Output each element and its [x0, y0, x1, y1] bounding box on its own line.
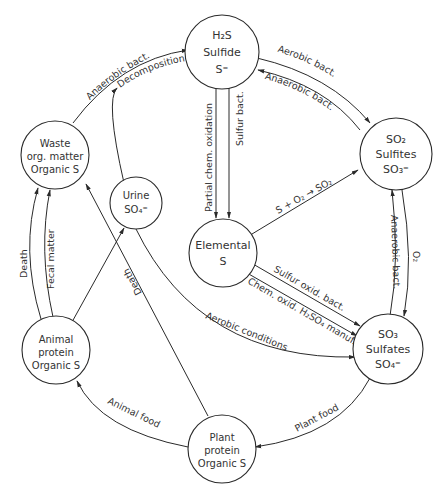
svg-text:Organic S: Organic S — [32, 360, 80, 371]
svg-text:Sulfide: Sulfide — [203, 46, 241, 59]
svg-text:Organic S: Organic S — [31, 164, 79, 175]
svg-text:S: S — [220, 255, 227, 268]
edge-urine-to-sulfide — [112, 88, 124, 183]
svg-text:SO₃⁼: SO₃⁼ — [383, 163, 409, 176]
node-sulfates: SO₃ Sulfates SO₄⁼ — [353, 314, 423, 384]
label-s-o2-so2: S + O₂ → SO₂ — [274, 176, 334, 216]
svg-text:Sulfates: Sulfates — [366, 343, 411, 356]
svg-text:Plant: Plant — [209, 432, 234, 443]
label-o2: O₂ — [411, 251, 422, 263]
svg-text:protein: protein — [204, 445, 240, 456]
svg-text:Elemental: Elemental — [195, 239, 250, 252]
edge-s-o2-so2 — [252, 170, 358, 234]
label-death-plant: Death — [121, 267, 144, 298]
label-partial-chem-oxidation: Partial chem. oxidation — [203, 103, 214, 212]
svg-text:SO₄⁼: SO₄⁼ — [375, 358, 401, 371]
label-sulfur-bact: Sulfur bact. — [234, 91, 245, 146]
edge-o2 — [402, 190, 409, 316]
node-elemental: Elemental S — [189, 219, 257, 287]
svg-text:SO₂: SO₂ — [386, 133, 406, 146]
svg-text:Sulfites: Sulfites — [376, 148, 417, 161]
svg-text:org. matter: org. matter — [27, 151, 85, 162]
node-waste: Waste org. matter Organic S — [21, 121, 89, 189]
svg-text:SO₄⁼: SO₄⁼ — [124, 204, 148, 215]
edge-death-left — [30, 188, 41, 319]
label-animal-food: Animal food — [106, 395, 162, 430]
node-sulfide: H₂S Sulfide S⁼ — [185, 15, 259, 89]
svg-text:Animal: Animal — [39, 334, 74, 345]
svg-text:S⁼: S⁼ — [216, 63, 229, 76]
label-aerobic-conditions: Aerobic conditions — [204, 310, 289, 353]
svg-text:SO₃: SO₃ — [378, 328, 398, 341]
label-fecal-matter: Fecal matter — [45, 229, 56, 289]
node-sulfites: SO₂ Sulfites SO₃⁼ — [360, 118, 432, 190]
node-animal-protein: Animal protein Organic S — [22, 316, 90, 384]
label-death-left: Death — [18, 249, 29, 278]
node-plant-protein: Plant protein Organic S — [188, 415, 256, 483]
node-urine: Urine SO₄⁼ — [110, 177, 162, 229]
svg-text:Waste: Waste — [40, 138, 71, 149]
label-aerobic-bact: Aerobic bact. — [277, 43, 339, 79]
label-anaerobic-bact-top: Anaerobic bact. — [264, 70, 337, 112]
svg-text:Urine: Urine — [123, 190, 150, 201]
svg-text:protein: protein — [38, 347, 74, 358]
svg-text:Organic S: Organic S — [198, 458, 246, 469]
label-anaerobic-bact-right: Anaerobic bact. — [389, 215, 403, 290]
svg-text:H₂S: H₂S — [212, 29, 232, 42]
